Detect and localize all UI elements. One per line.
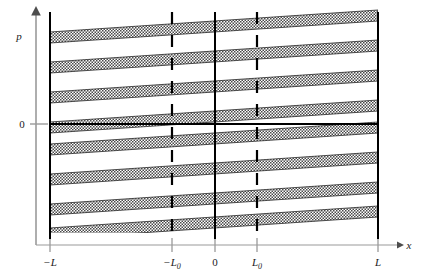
x-tick-label-L0: L0 [251, 256, 262, 270]
x-tick-label-minus-L0: −L0 [163, 256, 181, 270]
x-tick-label-zero: 0 [212, 256, 218, 268]
x-axis-label: x [406, 239, 412, 251]
p-axis-label: p [15, 30, 22, 42]
figure-canvas: p 0 x −L −L0 0 L0 L [0, 0, 424, 270]
y-zero-label: 0 [19, 118, 25, 130]
x-tick-label-L: L [374, 256, 381, 268]
phase-space-figure: p 0 x −L −L0 0 L0 L [0, 0, 424, 270]
x-tick-label-minus-L: −L [43, 256, 57, 268]
